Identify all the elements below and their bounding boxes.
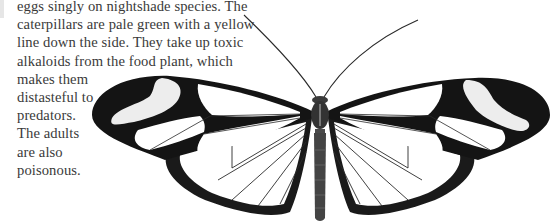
butterfly-illustration: [0, 0, 553, 222]
body-icon: [311, 96, 329, 221]
antennae-icon: [244, 15, 418, 97]
